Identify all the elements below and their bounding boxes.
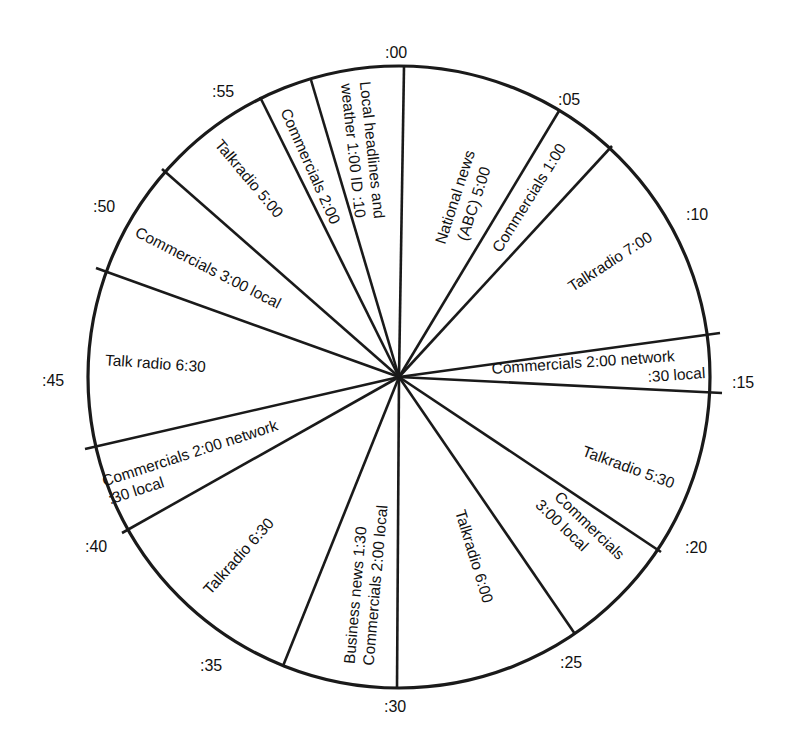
segment-boundaries: [85, 67, 722, 688]
tick-30: :30: [384, 698, 406, 715]
tick-55: :55: [212, 83, 234, 100]
label-commercials-3-local-50: Commercials 3:00 local: [133, 223, 284, 311]
label-commercials-2-00: Commercials 2:00: [277, 106, 343, 227]
label-commercials-network-15-local: :30 local: [647, 364, 706, 385]
boundary-05: [399, 111, 559, 377]
boundary-00: [399, 67, 404, 377]
tick-50: :50: [93, 198, 115, 215]
tick-45: :45: [42, 372, 64, 389]
boundary-30: [397, 377, 399, 688]
label-talk-radio-6-30-45: Talk radio 6:30: [105, 351, 207, 375]
boundary-06: [399, 146, 612, 377]
tick-20: :20: [685, 539, 707, 556]
label-talkradio-6-00: Talkradio 6:00: [452, 508, 497, 606]
tick-25: :25: [560, 654, 582, 671]
tick-10: :10: [686, 206, 708, 223]
label-commercials-network-40: Commercials 2:00 network: [100, 416, 280, 489]
tick-05: :05: [558, 91, 580, 108]
hour-clock-chart: :00 :05 :10 :15 :20 :25 :30 :35 :40 :45 …: [0, 0, 793, 740]
label-talkradio-5-00: Talkradio 5:00: [212, 136, 287, 221]
label-talkradio-5-30: Talkradio 5:30: [580, 442, 677, 491]
tick-40: :40: [85, 538, 107, 555]
label-talkradio-6-30-35: Talkradio 6:30: [200, 514, 277, 597]
tick-00: :00: [385, 44, 407, 61]
tick-15: :15: [732, 374, 754, 391]
tick-35: :35: [200, 657, 222, 674]
label-talkradio-7-00: Talkradio 7:00: [565, 228, 656, 295]
